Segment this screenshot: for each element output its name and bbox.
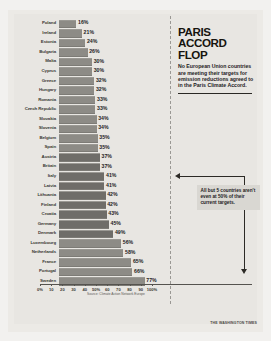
bar-category-label: Spain: [16, 144, 59, 149]
newspaper-clipping: Poland16%Ireland21%Estonia24%Bulgaria26%…: [0, 0, 271, 341]
bar-value-label: 30%: [94, 67, 104, 74]
bar-track: 26%: [59, 47, 169, 57]
bar-row: Ireland21%: [16, 28, 168, 38]
headline-deck: No European Union countries are meeting …: [178, 63, 254, 89]
bar-category-label: Cyprus: [16, 68, 59, 73]
bar-row: Portugal66%: [16, 266, 168, 276]
bar-track: 41%: [59, 180, 169, 190]
bar-category-label: Bulgaria: [16, 49, 59, 54]
bar-value-label: 34%: [98, 115, 108, 122]
bar-value-label: 65%: [133, 258, 143, 265]
bar-value-label: 35%: [99, 134, 109, 141]
bar-value-label: 42%: [107, 191, 117, 198]
bar-value-label: 66%: [134, 268, 144, 275]
bar-value-label: 33%: [97, 96, 107, 103]
headline-title: PARIS ACCORD FLOP: [178, 26, 254, 60]
bar-row: Finland42%: [16, 199, 168, 209]
bar-category-label: Lithuania: [16, 192, 59, 197]
bar-track: 32%: [59, 75, 169, 85]
bar-rows: Poland16%Ireland21%Estonia24%Bulgaria26%…: [16, 18, 168, 285]
bar-track: 56%: [59, 238, 169, 248]
bar-row: Croatia43%: [16, 209, 168, 219]
bar-track: 35%: [59, 142, 169, 152]
bar-track: 65%: [59, 257, 169, 267]
bar-track: 58%: [59, 247, 169, 257]
bar-category-label: Britain: [16, 163, 59, 168]
bar-value-label: 41%: [106, 182, 116, 189]
bar-track: 34%: [59, 123, 169, 133]
bar-track: 42%: [59, 199, 169, 209]
bar-track: 30%: [59, 56, 169, 66]
bar-track: 41%: [59, 171, 169, 181]
bar-value-label: 32%: [96, 77, 106, 84]
bar-value-label: 43%: [108, 210, 118, 217]
bar-track: 37%: [59, 152, 169, 162]
headline-panel: PARIS ACCORD FLOP No European Union coun…: [178, 26, 254, 94]
bar-track: 35%: [59, 133, 169, 143]
bar-row: Germany45%: [16, 218, 168, 228]
bar-row: Malta30%: [16, 56, 168, 66]
bar-track: 42%: [59, 190, 169, 200]
bar-row: Cyprus30%: [16, 66, 168, 76]
bar-row: Poland16%: [16, 18, 168, 28]
bar-value-label: 41%: [106, 172, 116, 179]
bar-row: Czech Republic33%: [16, 104, 168, 114]
axis-line: [40, 284, 252, 285]
bar-row: Spain35%: [16, 142, 168, 152]
bar-category-label: Ireland: [16, 30, 59, 35]
bar-value-label: 30%: [94, 58, 104, 65]
bar-value-label: 35%: [99, 144, 109, 151]
bar-row: Austria37%: [16, 152, 168, 162]
bar-category-label: Slovakia: [16, 116, 59, 121]
bar-row: Latvia41%: [16, 180, 168, 190]
bar-category-label: Germany: [16, 221, 59, 226]
bar-category-label: Belgium: [16, 135, 59, 140]
bar-value-label: 21%: [84, 29, 94, 36]
bar-value-label: 24%: [87, 38, 97, 45]
bar-value-label: 34%: [98, 124, 108, 131]
bar-value-label: 37%: [102, 153, 112, 160]
callout-arrow-bottom-icon: [241, 269, 247, 274]
bar-row: Bulgaria26%: [16, 47, 168, 57]
bar-track: 34%: [59, 113, 169, 123]
bar-value-label: 49%: [115, 229, 125, 236]
bar-row: Greece32%: [16, 75, 168, 85]
bar-track: 21%: [59, 28, 169, 38]
annotation-callout: All but 5 countries aren't even at 50% o…: [197, 185, 260, 210]
bar-category-label: Slovenia: [16, 125, 59, 130]
bar-category-label: Hungary: [16, 87, 59, 92]
bar-track: 43%: [59, 209, 169, 219]
bar-category-label: Portugal: [16, 268, 59, 273]
bar-category-label: France: [16, 259, 59, 264]
bar-chart: Poland16%Ireland21%Estonia24%Bulgaria26%…: [16, 16, 168, 312]
bar-row: Netherlands58%: [16, 247, 168, 257]
bar-row: Slovenia34%: [16, 123, 168, 133]
bar-track: 66%: [59, 266, 169, 276]
bar-value-label: 42%: [107, 201, 117, 208]
bar-category-label: Latvia: [16, 183, 59, 188]
headline-line-3: FLOP: [178, 49, 254, 60]
bar-category-label: Netherlands: [16, 249, 59, 254]
bar-track: 16%: [59, 18, 169, 28]
bar-value-label: 26%: [89, 48, 99, 55]
bar-row: Estonia24%: [16, 37, 168, 47]
bar-value-label: 32%: [96, 86, 106, 93]
bar-row: Romania33%: [16, 94, 168, 104]
bar-value-label: 58%: [125, 249, 135, 256]
bar-row: Britain37%: [16, 161, 168, 171]
bar-value-label: 33%: [97, 105, 107, 112]
axis-tick-label: 0%: [37, 287, 43, 292]
bar-category-label: Poland: [16, 20, 59, 25]
bar-category-label: Sweden: [16, 278, 59, 283]
bar-category-label: Romania: [16, 97, 59, 102]
bar-value-label: 37%: [102, 163, 112, 170]
bar-value-label: 45%: [111, 220, 121, 227]
bar-row: Italy41%: [16, 171, 168, 181]
bar-category-label: Croatia: [16, 211, 59, 216]
bar-row: Slovakia34%: [16, 113, 168, 123]
bar-track: 37%: [59, 161, 169, 171]
bar-row: Luxembourg56%: [16, 238, 168, 248]
bar-row: Hungary32%: [16, 85, 168, 95]
bar-track: 30%: [59, 66, 169, 76]
bar-track: 33%: [59, 94, 169, 104]
